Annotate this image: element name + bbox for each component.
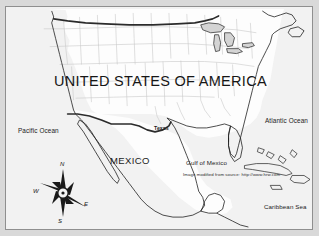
country-label-united-states: UNITED STATES OF AMERICA <box>54 73 267 89</box>
compass-hub-inner <box>61 191 64 194</box>
compass-label-south: S <box>58 218 62 224</box>
compass-label-north: N <box>60 161 64 167</box>
attribution-text: Image modified from source: http://www.h… <box>183 172 280 177</box>
caribbean-islands <box>244 148 310 190</box>
nova-scotia <box>288 27 304 37</box>
compass-points <box>40 169 86 217</box>
ocean-label-pacific: Pacific Ocean <box>18 127 59 134</box>
compass-label-west: W <box>33 188 39 194</box>
central-america <box>217 213 249 227</box>
map-plate: UNITED STATES OF AMERICA MEXICO Texas Pa… <box>5 6 313 230</box>
compass-label-east: E <box>84 201 88 207</box>
slide-canvas: UNITED STATES OF AMERICA MEXICO Texas Pa… <box>0 0 319 236</box>
hispaniola <box>290 175 310 183</box>
compass-rose: N E S W <box>32 161 94 227</box>
compass-rose-graphic <box>32 161 94 227</box>
country-label-mexico: MEXICO <box>110 155 150 166</box>
bahamas-1 <box>257 148 264 154</box>
ocean-label-atlantic: Atlantic Ocean <box>265 117 308 124</box>
bahamas-3 <box>278 156 286 164</box>
water-label-caribbean-sea: Caribbean Sea <box>264 203 307 210</box>
jamaica <box>270 185 282 189</box>
lake-michigan <box>214 35 221 52</box>
state-label-texas: Texas <box>154 125 169 131</box>
bahamas-2 <box>266 152 274 159</box>
bahamas-4 <box>290 150 297 158</box>
water-label-gulf-of-mexico: Gulf of Mexico <box>186 159 227 166</box>
